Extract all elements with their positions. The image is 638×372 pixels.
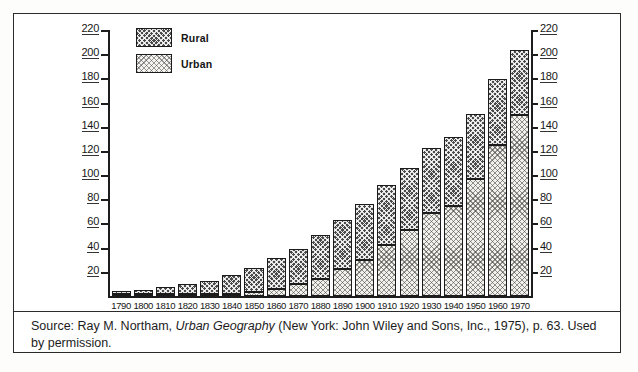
bar-segment-rural-1820 (178, 284, 197, 293)
bar-1820 (178, 284, 197, 296)
y-tick-right-40 (531, 248, 538, 250)
bar-1870 (289, 249, 308, 296)
y-tick-left-80 (101, 199, 108, 201)
y-tick-left-140 (101, 127, 108, 129)
y-tick-label-right-80: 80 (540, 192, 552, 204)
bar-1800 (134, 290, 153, 296)
bar-segment-urban-1960 (488, 145, 507, 296)
y-tick-left-60 (101, 223, 108, 225)
bar-segment-rural-1960 (488, 79, 507, 144)
bar-segment-urban-1790 (112, 294, 131, 296)
bar-segment-urban-1880 (311, 279, 330, 296)
bar-1850 (244, 268, 263, 296)
y-tick-label-right-180: 180 (540, 71, 557, 83)
bar-segment-rural-1900 (355, 204, 374, 259)
bar-segment-rural-1870 (289, 249, 308, 284)
bar-segment-urban-1870 (289, 284, 308, 296)
figure-container: Rural Urban 2020404060608080100100120120… (0, 0, 638, 372)
bar-1880 (311, 235, 330, 296)
bar-1810 (156, 287, 175, 296)
caption-title: Urban Geography (176, 319, 275, 333)
y-tick-label-left-220: 220 (82, 23, 99, 35)
y-axis-right (531, 30, 533, 296)
y-tick-left-180 (101, 78, 108, 80)
bar-segment-rural-1920 (400, 168, 419, 230)
y-tick-left-20 (101, 272, 108, 274)
bar-segment-urban-1820 (178, 294, 197, 296)
y-tick-left-200 (101, 54, 108, 56)
y-tick-label-right-120: 120 (540, 144, 557, 156)
source-caption: Source: Ray M. Northam, Urban Geography … (31, 318, 606, 352)
y-tick-label-left-40: 40 (87, 241, 99, 253)
bar-segment-rural-1930 (422, 148, 441, 213)
bar-segment-rural-1880 (311, 235, 330, 279)
bar-segment-urban-1890 (333, 269, 352, 296)
y-tick-right-160 (531, 103, 538, 105)
y-tick-left-100 (101, 175, 108, 177)
bar-1910 (377, 185, 396, 296)
bar-segment-urban-1850 (244, 292, 263, 296)
bar-segment-urban-1930 (422, 213, 441, 296)
bar-segment-urban-1900 (355, 260, 374, 297)
y-tick-label-left-120: 120 (82, 144, 99, 156)
bar-segment-rural-1950 (466, 114, 485, 180)
bar-segment-urban-1830 (200, 294, 219, 296)
bar-segment-rural-1890 (333, 220, 352, 269)
plot-area: 2020404060608080100100120120140140160160… (108, 30, 531, 296)
caption-divider (14, 311, 620, 312)
x-tick-label-1970: 1970 (507, 300, 532, 311)
bar-segment-urban-1970 (510, 115, 529, 296)
caption-prefix: Source: Ray M. Northam, (31, 319, 176, 333)
bar-group (110, 30, 531, 296)
bar-1960 (488, 79, 507, 296)
y-tick-right-200 (531, 54, 538, 56)
y-tick-label-left-140: 140 (82, 120, 99, 132)
y-tick-left-40 (101, 248, 108, 250)
y-tick-label-left-200: 200 (82, 47, 99, 59)
y-tick-label-right-100: 100 (540, 168, 557, 180)
y-tick-right-20 (531, 272, 538, 274)
bar-1790 (112, 291, 131, 296)
bar-segment-urban-1800 (134, 294, 153, 296)
bar-segment-rural-1970 (510, 50, 529, 115)
y-tick-label-right-40: 40 (540, 241, 552, 253)
bar-segment-urban-1910 (377, 245, 396, 296)
bar-1890 (333, 220, 352, 296)
y-tick-label-right-140: 140 (540, 120, 557, 132)
bar-segment-urban-1920 (400, 230, 419, 296)
y-tick-right-180 (531, 78, 538, 80)
y-tick-left-160 (101, 103, 108, 105)
bar-segment-rural-1850 (244, 268, 263, 292)
y-tick-label-left-100: 100 (82, 168, 99, 180)
y-tick-right-120 (531, 151, 538, 153)
y-tick-label-right-60: 60 (540, 216, 552, 228)
y-tick-label-right-160: 160 (540, 96, 557, 108)
y-tick-left-220 (101, 30, 108, 32)
bar-1860 (267, 258, 286, 296)
bar-segment-urban-1860 (267, 289, 286, 296)
y-tick-right-220 (531, 30, 538, 32)
bar-segment-urban-1810 (156, 294, 175, 296)
bar-1930 (422, 148, 441, 296)
bar-1900 (355, 204, 374, 296)
bar-segment-rural-1910 (377, 185, 396, 245)
bar-1830 (200, 281, 219, 296)
bar-1950 (466, 114, 485, 296)
bar-segment-rural-1940 (444, 137, 463, 206)
bar-segment-rural-1840 (222, 275, 241, 293)
bar-1940 (444, 137, 463, 296)
y-tick-right-100 (531, 175, 538, 177)
bar-segment-rural-1860 (267, 258, 286, 288)
y-tick-label-right-220: 220 (540, 23, 557, 35)
bar-1840 (222, 275, 241, 296)
y-tick-right-60 (531, 223, 538, 225)
y-tick-label-right-20: 20 (540, 265, 552, 277)
y-tick-right-140 (531, 127, 538, 129)
bar-1970 (510, 50, 529, 296)
y-tick-right-80 (531, 199, 538, 201)
bar-segment-urban-1950 (466, 179, 485, 296)
bar-segment-rural-1830 (200, 281, 219, 294)
y-tick-label-left-60: 60 (87, 216, 99, 228)
y-tick-label-left-80: 80 (87, 192, 99, 204)
bar-segment-urban-1840 (222, 294, 241, 296)
